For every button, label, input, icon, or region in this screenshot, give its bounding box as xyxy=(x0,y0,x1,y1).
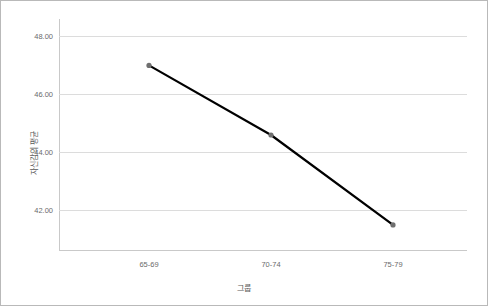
x-tick-label-75-79: 75-79 xyxy=(383,251,402,269)
series-line xyxy=(149,65,393,225)
x-axis-title: 그룹 xyxy=(1,282,487,293)
y-tick-label: 48.00 xyxy=(34,32,59,41)
line-chart: 자신감의 평균 48.00 46.00 44.00 42.00 65-69 70… xyxy=(0,0,488,306)
data-point-75-79 xyxy=(390,222,395,227)
y-tick-label: 46.00 xyxy=(34,90,59,99)
data-point-70-74 xyxy=(268,132,273,137)
plot-area: 48.00 46.00 44.00 42.00 65-69 70-74 75-7… xyxy=(59,19,467,251)
y-tick-label: 42.00 xyxy=(34,206,59,215)
series-line-group xyxy=(59,19,467,251)
data-point-65-69 xyxy=(146,63,151,68)
x-tick-label-65-69: 65-69 xyxy=(139,251,158,269)
y-tick-label: 44.00 xyxy=(34,148,59,157)
x-tick-label-70-74: 70-74 xyxy=(261,251,280,269)
